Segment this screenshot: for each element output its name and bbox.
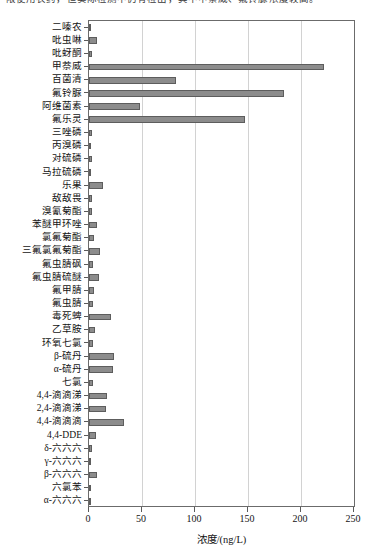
x-axis-tick <box>353 507 354 512</box>
bar <box>89 353 114 360</box>
y-axis-label: 百菌清 <box>0 73 86 86</box>
bar-row <box>89 442 354 455</box>
y-axis-label: 毒死蜱 <box>0 309 86 322</box>
bar <box>89 64 324 71</box>
bar <box>89 130 92 137</box>
y-axis-tick <box>84 158 88 159</box>
y-axis-tick <box>84 27 88 28</box>
y-axis-label: 吡虫啉 <box>0 33 86 46</box>
y-axis-tick <box>84 40 88 41</box>
bar <box>89 314 111 321</box>
y-axis-tick <box>84 408 88 409</box>
bar-row <box>89 100 354 113</box>
y-axis-tick <box>84 53 88 54</box>
x-axis-tick-label: 200 <box>293 513 308 524</box>
y-axis-label: 丙溴磷 <box>0 138 86 151</box>
bar <box>89 90 284 97</box>
y-axis-label: β-六六六 <box>0 467 86 480</box>
y-axis-label: 氟虫腈 <box>0 296 86 309</box>
bar-row <box>89 271 354 284</box>
y-axis-tick <box>84 92 88 93</box>
y-axis-tick <box>84 316 88 317</box>
bar <box>89 472 97 479</box>
bar-row <box>89 455 354 468</box>
y-axis-label: 三唑磷 <box>0 125 86 138</box>
bar-row <box>89 403 354 416</box>
bar-row <box>89 139 354 152</box>
y-axis-tick <box>84 382 88 383</box>
pesticide-concentration-bar-chart: 二嗪农吡虫啉吡蚜酮甲萘威百菌清氟铃脲阿维菌素氟乐灵三唑磷丙溴磷对硫磷马拉硫磷乐果… <box>0 14 378 556</box>
bar <box>89 195 92 202</box>
bar <box>89 380 93 387</box>
y-axis-tick <box>84 421 88 422</box>
bar <box>89 485 91 492</box>
y-axis-tick <box>84 185 88 186</box>
clipped-body-text: 限使用农药，但实际检测中仍有检出，其中甲萘威、氟铃脲浓度较高。 <box>6 0 319 5</box>
y-axis-label: 马拉硫磷 <box>0 165 86 178</box>
bar-row <box>89 376 354 389</box>
y-axis-label: 氟虫腈硫醚 <box>0 270 86 283</box>
bar-row <box>89 310 354 323</box>
y-axis-label: 4,4-DDE <box>0 428 86 441</box>
bar-row <box>89 481 354 494</box>
y-axis-tick <box>84 198 88 199</box>
bar-row <box>89 389 354 402</box>
x-axis-tick <box>247 507 248 512</box>
bar <box>89 24 91 31</box>
bar <box>89 274 99 281</box>
y-axis-tick <box>84 369 88 370</box>
bar <box>89 301 93 308</box>
bar-row <box>89 429 354 442</box>
x-axis-tick-label: 250 <box>346 513 361 524</box>
bar <box>89 393 107 400</box>
y-axis-tick <box>84 224 88 225</box>
y-axis-label: 乐果 <box>0 178 86 191</box>
y-axis-tick <box>84 119 88 120</box>
bar-row <box>89 179 354 192</box>
bar <box>89 261 93 268</box>
x-axis-title: 浓度/(ng/L) <box>88 531 355 546</box>
plot-area <box>88 20 355 507</box>
bar <box>89 287 94 294</box>
y-axis-tick <box>84 66 88 67</box>
bar-row <box>89 166 354 179</box>
y-axis-label: γ-六六六 <box>0 454 86 467</box>
y-axis-label: 六氯苯 <box>0 480 86 493</box>
bar <box>89 116 245 123</box>
bar <box>89 432 96 439</box>
y-axis-tick <box>84 106 88 107</box>
bar <box>89 445 92 452</box>
bar <box>89 37 97 44</box>
y-axis-label: α-硫丹 <box>0 362 86 375</box>
y-axis-tick <box>84 461 88 462</box>
x-axis-tick <box>300 507 301 512</box>
y-axis-label: 三氟氯氟菊酯 <box>0 244 86 257</box>
bar <box>89 143 91 150</box>
y-axis-label: 苯醚甲环唑 <box>0 217 86 230</box>
bar <box>89 222 97 229</box>
x-axis-tick-label: 0 <box>86 513 91 524</box>
bar <box>89 156 92 163</box>
bar-row <box>89 337 354 350</box>
y-axis-label: 对硫磷 <box>0 152 86 165</box>
y-axis-tick <box>84 250 88 251</box>
clipped-top-text-strip: 限使用农药，但实际检测中仍有检出，其中甲萘威、氟铃脲浓度较高。 <box>0 0 378 11</box>
bar-row <box>89 468 354 481</box>
bar-row <box>89 113 354 126</box>
bar <box>89 498 91 505</box>
bar-row <box>89 284 354 297</box>
bar <box>89 406 106 413</box>
y-axis-label: 2,4-滴滴涕 <box>0 402 86 415</box>
y-axis-tick <box>84 500 88 501</box>
y-axis-tick <box>84 303 88 304</box>
bar-row <box>89 232 354 245</box>
bar-row <box>89 205 354 218</box>
bar <box>89 51 92 58</box>
y-axis-tick <box>84 329 88 330</box>
bar <box>89 169 91 176</box>
y-axis-label: 敌敌畏 <box>0 191 86 204</box>
bar-row <box>89 363 354 376</box>
y-axis-label: 甲萘威 <box>0 59 86 72</box>
y-axis-label: 溴氰菊酯 <box>0 204 86 217</box>
y-axis-tick <box>84 211 88 212</box>
